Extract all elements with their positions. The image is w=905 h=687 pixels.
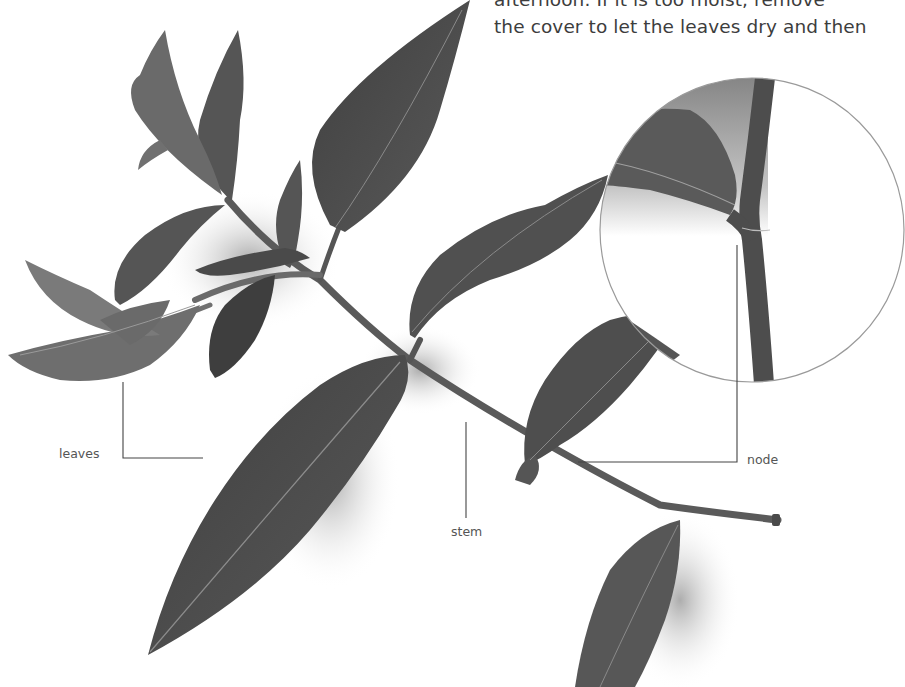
- plant-illustration: [0, 0, 905, 687]
- label-node: node: [747, 453, 778, 467]
- leaves-callout-line: [123, 382, 203, 458]
- label-stem: stem: [451, 525, 482, 539]
- label-leaves: leaves: [59, 447, 99, 461]
